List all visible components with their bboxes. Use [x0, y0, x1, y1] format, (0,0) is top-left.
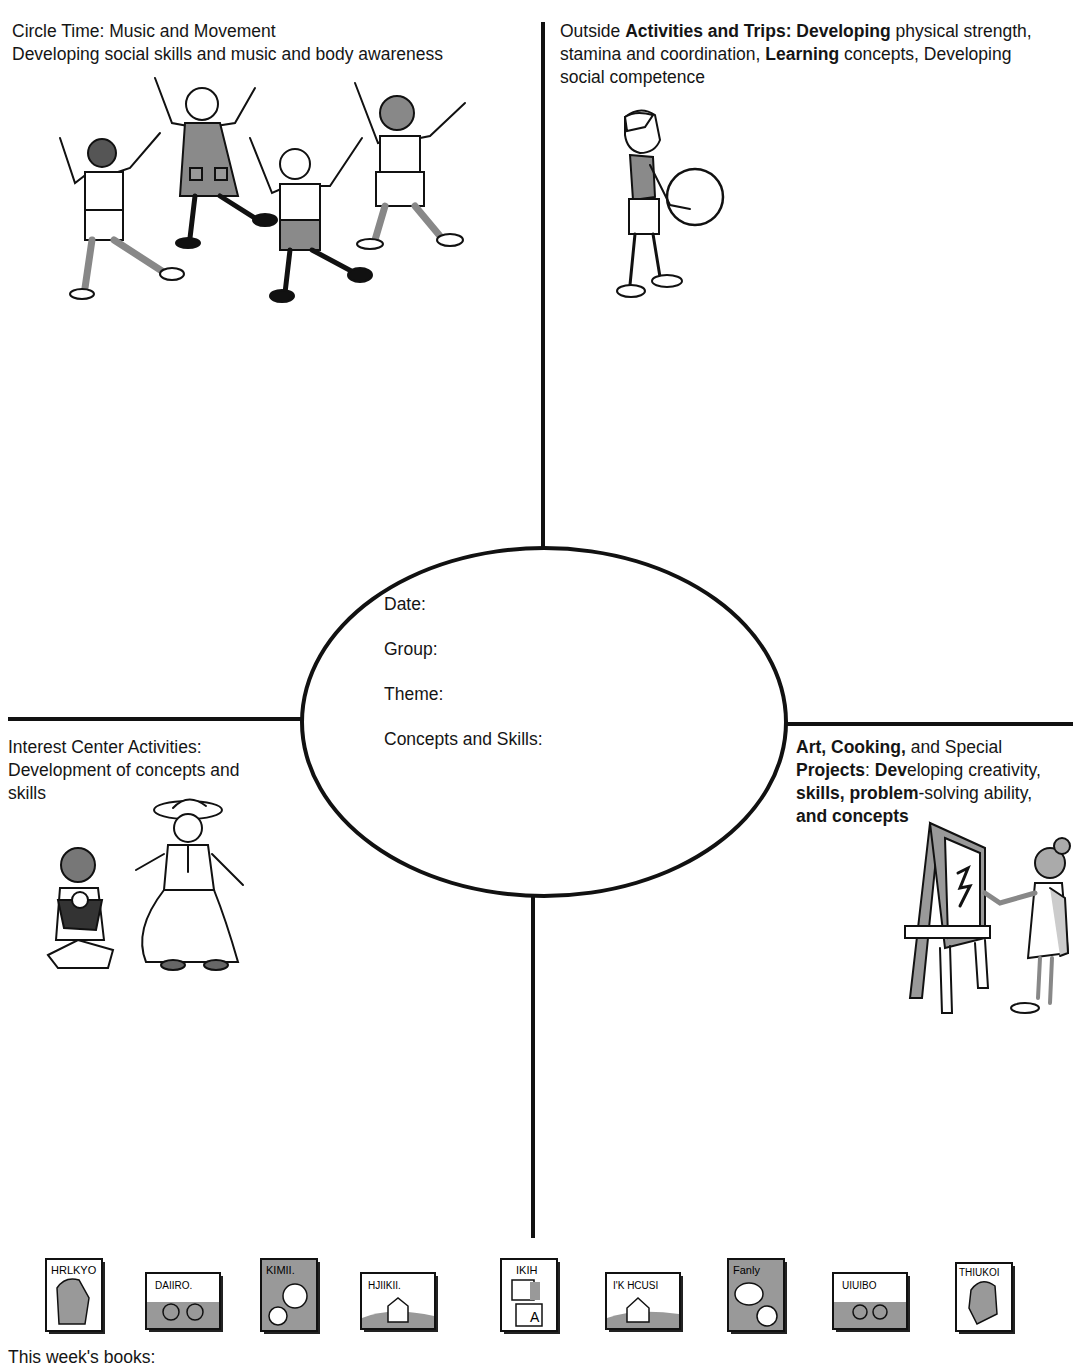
circle-time-title: Circle Time: Music and Movement [12, 20, 443, 43]
circle-time-subtitle: Developing social skills and music and b… [12, 43, 443, 66]
svg-text:DAIIRO.: DAIIRO. [155, 1280, 192, 1291]
boy-with-ball-illustration [605, 105, 730, 305]
heading-text-bold: Dev [875, 760, 907, 780]
book-cover-9[interactable]: THIUKOI [955, 1262, 1017, 1336]
svg-text:IKIH: IKIH [516, 1264, 537, 1276]
concepts-skills-field-label[interactable]: Concepts and Skills: [384, 729, 543, 750]
heading-text: and Special [906, 737, 1002, 757]
heading-text: physical strength, [891, 21, 1032, 41]
group-field-label[interactable]: Group: [384, 639, 438, 660]
girl-painting-easel-illustration [900, 818, 1080, 1018]
heading-text: Development of concepts and [8, 759, 240, 782]
book-cover-1[interactable]: HRLKYO [45, 1258, 107, 1336]
heading-text: : [865, 760, 875, 780]
book-cover-2[interactable]: DAIIRO. [145, 1272, 225, 1334]
book-cover-4[interactable]: HJIIKII. [360, 1272, 440, 1334]
theme-field-label[interactable]: Theme: [384, 684, 443, 705]
divider-right-horizontal [784, 722, 1073, 726]
heading-text: stamina and coordination, [560, 44, 765, 64]
center-info-oval [300, 546, 788, 898]
children-dancing-illustration [40, 68, 480, 308]
heading-text-bold: Learning [765, 44, 839, 64]
svg-text:HJIIKII.: HJIIKII. [368, 1280, 401, 1291]
heading-text-bold: Activities and Trips: Developing [625, 21, 890, 41]
book-cover-8[interactable]: UIUIBO [832, 1272, 912, 1334]
circle-time-heading: Circle Time: Music and Movement Developi… [12, 20, 443, 66]
heading-text: Interest Center Activities: [8, 736, 240, 759]
svg-text:I'K HCUSI: I'K HCUSI [613, 1280, 658, 1291]
book-cover-6[interactable]: I'K HCUSI [605, 1272, 685, 1334]
book-cover-3[interactable]: KIMII. [260, 1258, 322, 1336]
date-field-label[interactable]: Date: [384, 594, 426, 615]
heading-text: social competence [560, 66, 1080, 89]
outside-activities-heading: Outside Activities and Trips: Developing… [560, 20, 1080, 89]
heading-text-bold: Projects [796, 760, 865, 780]
heading-text: -solving ability, [919, 783, 1032, 803]
heading-text: concepts, Developing [839, 44, 1011, 64]
svg-text:UIUIBO: UIUIBO [842, 1280, 877, 1291]
heading-text-bold: Art, Cooking, [796, 737, 906, 757]
svg-text:Fanly: Fanly [733, 1264, 760, 1276]
heading-text-bold: skills, problem [796, 783, 919, 803]
svg-text:HRLKYO: HRLKYO [51, 1264, 97, 1276]
art-cooking-heading: Art, Cooking, and Special Projects: Deve… [796, 736, 1081, 828]
book-cover-7[interactable]: Fanly [727, 1258, 789, 1336]
divider-left-horizontal [8, 717, 304, 721]
divider-top-vertical [541, 22, 545, 548]
heading-text: eloping creativity, [907, 760, 1041, 780]
children-dress-up-illustration [38, 790, 258, 975]
svg-text:A: A [530, 1309, 540, 1325]
svg-text:KIMII.: KIMII. [266, 1264, 295, 1276]
books-label: This week's books: [8, 1346, 155, 1369]
book-cover-5[interactable]: A IKIH [500, 1258, 562, 1336]
divider-bottom-vertical [531, 896, 535, 1238]
svg-text:THIUKOI: THIUKOI [959, 1267, 1000, 1278]
heading-text: Outside [560, 21, 625, 41]
